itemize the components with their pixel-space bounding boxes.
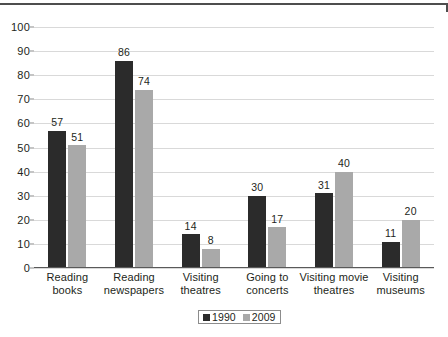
bar-value-label: 31	[318, 180, 330, 191]
bar-value-label: 40	[338, 158, 350, 169]
y-axis-labels: 0102030405060708090100	[0, 27, 30, 268]
y-tick-label-40: 40	[17, 166, 30, 177]
y-tick-label-20: 20	[17, 214, 30, 225]
bar-value-label: 17	[271, 214, 283, 225]
gridline-60	[34, 123, 434, 124]
y-tick-label-80: 80	[17, 70, 30, 81]
bar-value-label: 57	[51, 117, 63, 128]
bar-value-label: 30	[251, 182, 263, 193]
x-category-label: Visitingmuseums	[359, 271, 443, 297]
legend-swatch-icon	[243, 314, 250, 321]
bar-2009-visiting-movie-theatres	[335, 172, 353, 268]
bar-value-label: 20	[405, 206, 417, 217]
bar-2009-reading-newspapers	[135, 90, 153, 268]
legend-label: 1990	[212, 312, 236, 323]
x-category-label-line: Visiting	[359, 271, 443, 284]
bar-value-label: 51	[71, 132, 83, 143]
bar-1990-visiting-museums	[382, 242, 400, 269]
bar-value-label: 11	[385, 228, 396, 239]
bar-1990-visiting-movie-theatres	[315, 193, 333, 268]
plot-area: 57518674148301731401120	[34, 27, 434, 268]
bar-1990-going-to-concerts	[248, 196, 266, 268]
y-tick-label-10: 10	[17, 238, 30, 249]
legend-swatch-icon	[203, 314, 210, 321]
gridline-0	[34, 268, 434, 269]
bar-2009-going-to-concerts	[268, 227, 286, 268]
x-category-label-line: museums	[359, 284, 443, 297]
bar-value-label: 14	[185, 221, 197, 232]
y-tick-label-30: 30	[17, 190, 30, 201]
bar-chart: 0102030405060708090100 57518674148301731…	[0, 0, 448, 337]
gridline-10	[34, 244, 434, 245]
bar-1990-reading-newspapers	[115, 61, 133, 268]
y-tick-label-60: 60	[17, 118, 30, 129]
x-axis-category-labels: ReadingbooksReadingnewspapersVisitingthe…	[34, 271, 434, 305]
y-tick-label-70: 70	[17, 94, 30, 105]
bar-value-label: 8	[208, 235, 214, 246]
y-tick-label-100: 100	[11, 22, 30, 33]
bar-2009-reading-books	[68, 145, 86, 268]
gridline-100	[34, 27, 434, 28]
gridline-20	[34, 220, 434, 221]
page-top-rule	[0, 3, 448, 5]
bar-2009-visiting-museums	[402, 220, 420, 268]
bar-1990-reading-books	[48, 131, 66, 268]
bar-value-label: 86	[118, 47, 130, 58]
gridline-70	[34, 99, 434, 100]
gridline-50	[34, 148, 434, 149]
bar-value-label: 74	[138, 76, 150, 87]
bar-2009-visiting-theatres	[202, 249, 220, 268]
gridline-40	[34, 172, 434, 173]
chart-legend: 19902009	[198, 310, 281, 324]
y-tick-label-50: 50	[17, 142, 30, 153]
gridline-90	[34, 51, 434, 52]
gridline-30	[34, 196, 434, 197]
bar-1990-visiting-theatres	[182, 234, 200, 268]
legend-item-2009: 2009	[243, 312, 276, 323]
gridline-80	[34, 75, 434, 76]
y-tick-label-90: 90	[17, 46, 30, 57]
legend-label: 2009	[252, 312, 276, 323]
x-axis-line	[34, 267, 434, 268]
legend-item-1990: 1990	[203, 312, 236, 323]
